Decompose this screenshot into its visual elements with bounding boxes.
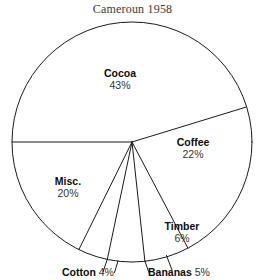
slice-label-coffee-value: 22% — [160, 149, 226, 161]
slice-label-cotton: Cotton 4% — [62, 262, 152, 280]
slice-label-misc-value: 20% — [38, 188, 98, 200]
slice-label-misc-name: Misc. — [38, 176, 98, 188]
slice-label-cocoa-name: Cocoa — [84, 68, 156, 80]
slice-label-misc: Misc. 20% — [38, 176, 98, 200]
slice-label-coffee-name: Coffee — [160, 137, 226, 149]
slice-label-timber-name: Timber — [152, 221, 212, 233]
slice-label-cotton-name: Cotton — [62, 266, 96, 278]
slice-label-cocoa: Cocoa 43% — [84, 68, 156, 92]
slice-label-coffee: Coffee 22% — [160, 137, 226, 161]
slice-label-bananas-name: Bananas — [148, 266, 192, 278]
slice-label-timber: Timber 6% — [152, 221, 212, 245]
slice-label-bananas-value: 5% — [192, 266, 210, 278]
pie-chart-figure: Cameroun 1958 Cocoa 43% — [0, 0, 265, 280]
slice-label-bananas: Bananas 5% — [148, 262, 248, 280]
slice-label-cocoa-value: 43% — [84, 80, 156, 92]
slice-label-cotton-value: 4% — [96, 266, 114, 278]
slice-label-timber-value: 6% — [152, 233, 212, 245]
